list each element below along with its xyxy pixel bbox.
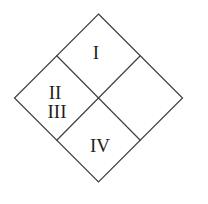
diamond-quadrant-diagram: I II III IV bbox=[0, 0, 208, 204]
quadrant-label-left-upper: II bbox=[49, 82, 62, 103]
quadrant-label-bottom: IV bbox=[90, 135, 110, 156]
diagram-canvas: I II III IV bbox=[0, 0, 208, 204]
quadrant-label-left-lower: III bbox=[48, 101, 67, 122]
quadrant-label-top: I bbox=[93, 42, 99, 63]
